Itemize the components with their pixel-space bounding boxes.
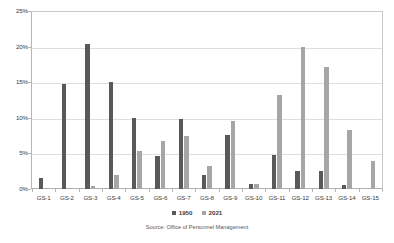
bars-layer — [32, 11, 382, 189]
x-tick-label: GS-13 — [312, 194, 335, 201]
y-tick-label: 15% — [2, 79, 28, 85]
x-tick-mark — [195, 189, 196, 192]
bar-group — [172, 11, 195, 189]
bar-gs-6-1950 — [155, 156, 160, 189]
bar-gs-15-2021 — [371, 161, 376, 189]
bar-gs-13-1950 — [319, 171, 324, 190]
chart-legend: 19502021 — [0, 210, 394, 216]
bar-gs-2-1950 — [62, 84, 67, 189]
x-tick-label: GS-6 — [149, 194, 172, 201]
bar-group — [55, 11, 78, 189]
bar-gs-10-2021 — [254, 184, 259, 189]
x-tick-mark — [312, 189, 313, 192]
bar-group — [359, 11, 382, 189]
bar-group — [102, 11, 125, 189]
x-tick-label: GS-1 — [32, 194, 55, 201]
x-tick-mark — [172, 189, 173, 192]
bar-gs-9-2021 — [231, 121, 236, 189]
bar-group — [265, 11, 288, 189]
x-tick-mark — [149, 189, 150, 192]
chart-figure: 0%5%10%15%20%25% GS-1GS-2GS-3GS-4GS-5GS-… — [0, 0, 394, 243]
bar-gs-3-1950 — [85, 44, 90, 189]
x-tick-mark — [382, 189, 383, 192]
y-tick-mark — [27, 189, 31, 190]
bar-gs-13-2021 — [324, 67, 329, 189]
x-tick-label: GS-12 — [289, 194, 312, 201]
bar-gs-14-1950 — [342, 185, 347, 189]
legend-label: 2021 — [209, 210, 223, 216]
bar-gs-1-1950 — [39, 178, 44, 189]
bar-gs-11-1950 — [272, 155, 277, 189]
bar-gs-5-1950 — [132, 118, 137, 189]
bar-group — [335, 11, 358, 189]
y-tick-label: 0% — [2, 186, 28, 192]
x-tick-label: GS-2 — [55, 194, 78, 201]
legend-entry-1950[interactable]: 1950 — [172, 210, 193, 216]
y-tick-label: 20% — [2, 44, 28, 50]
bar-gs-12-1950 — [295, 171, 300, 190]
y-tick-label: 5% — [2, 150, 28, 156]
x-tick-mark — [55, 189, 56, 192]
bar-group — [289, 11, 312, 189]
bar-gs-5-2021 — [137, 151, 142, 189]
x-tick-mark — [335, 189, 336, 192]
bar-gs-3-2021 — [91, 186, 96, 189]
x-tick-label: GS-4 — [102, 194, 125, 201]
x-tick-mark — [32, 189, 33, 192]
x-tick-label: GS-9 — [219, 194, 242, 201]
legend-label: 1950 — [179, 210, 193, 216]
legend-swatch-icon — [172, 211, 177, 216]
x-tick-label: GS-7 — [172, 194, 195, 201]
bar-gs-7-2021 — [184, 136, 189, 189]
bar-gs-14-2021 — [347, 130, 352, 189]
x-tick-label: GS-15 — [359, 194, 382, 201]
x-tick-label: GS-3 — [79, 194, 102, 201]
x-tick-mark — [359, 189, 360, 192]
bar-group — [32, 11, 55, 189]
x-tick-mark — [219, 189, 220, 192]
x-tick-label: GS-14 — [335, 194, 358, 201]
legend-entry-2021[interactable]: 2021 — [202, 210, 223, 216]
source-note: Source: Office of Personnel Management — [0, 224, 394, 230]
bar-gs-7-1950 — [179, 119, 184, 189]
bar-group — [312, 11, 335, 189]
x-axis-labels: GS-1GS-2GS-3GS-4GS-5GS-6GS-7GS-8GS-9GS-1… — [32, 194, 382, 201]
y-tick-label: 10% — [2, 115, 28, 121]
x-tick-mark — [102, 189, 103, 192]
bar-gs-6-2021 — [161, 141, 166, 189]
x-tick-label: GS-10 — [242, 194, 265, 201]
bar-gs-2-2021 — [67, 188, 72, 189]
bar-group — [149, 11, 172, 189]
x-tick-mark — [125, 189, 126, 192]
bar-gs-4-2021 — [114, 175, 119, 189]
bar-group — [242, 11, 265, 189]
x-tick-mark — [289, 189, 290, 192]
x-tick-mark — [265, 189, 266, 192]
bar-gs-9-1950 — [225, 135, 230, 189]
x-tick-mark — [242, 189, 243, 192]
x-tick-label: GS-8 — [195, 194, 218, 201]
bar-gs-8-2021 — [207, 166, 212, 189]
bar-gs-11-2021 — [277, 95, 282, 189]
bar-gs-4-1950 — [109, 82, 114, 189]
x-tick-mark — [79, 189, 80, 192]
x-tick-label: GS-11 — [265, 194, 288, 201]
y-tick-label: 25% — [2, 8, 28, 14]
x-tick-label: GS-5 — [125, 194, 148, 201]
bar-gs-8-1950 — [202, 175, 207, 189]
bar-group — [195, 11, 218, 189]
bar-group — [219, 11, 242, 189]
legend-swatch-icon — [202, 211, 207, 216]
bar-group — [125, 11, 148, 189]
bar-gs-12-2021 — [301, 47, 306, 189]
bar-group — [79, 11, 102, 189]
bar-gs-10-1950 — [249, 184, 254, 189]
